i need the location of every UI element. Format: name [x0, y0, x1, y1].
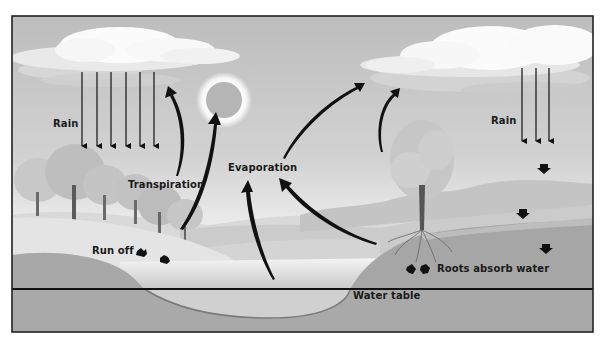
water-cycle-diagram: [0, 0, 603, 347]
label-transpiration: Transpiration: [128, 180, 204, 190]
sun: [196, 72, 252, 128]
label-water-table: Water table: [353, 291, 420, 301]
label-rain-left: Rain: [53, 119, 78, 129]
label-rain-right: Rain: [491, 116, 516, 126]
label-roots-absorb-water: Roots absorb water: [437, 264, 549, 274]
label-evaporation: Evaporation: [228, 163, 297, 173]
label-run-off: Run off: [92, 246, 134, 256]
